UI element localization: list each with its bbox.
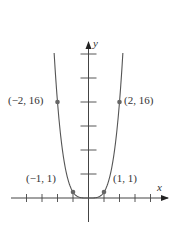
y-axis-label: y (92, 37, 98, 49)
data-point (55, 100, 60, 105)
data-point (102, 190, 107, 195)
point-label-1-1: (1, 1) (113, 172, 137, 185)
data-point (117, 100, 122, 105)
point-label-2-16: (2, 16) (124, 94, 154, 107)
x-axis-label: x (156, 181, 162, 193)
function-graph: x y (−2, 16) (2, 16) (−1, 1) (1, 1) (0, 0, 174, 233)
point-label-neg1-1: (−1, 1) (26, 172, 56, 185)
data-point (71, 190, 76, 195)
point-label-neg2-16: (−2, 16) (8, 94, 44, 107)
axes (11, 42, 168, 222)
